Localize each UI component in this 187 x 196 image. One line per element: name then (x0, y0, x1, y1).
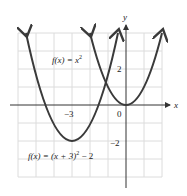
tick-y-2: 2 (117, 64, 122, 74)
tick-y-neg2: −2 (110, 138, 120, 148)
y-axis-label: y (122, 12, 127, 22)
legend-f-x-squared: f(x) = x2 (52, 54, 82, 65)
legend-f-shifted: f(x) = (x + 3)2 − 2 (28, 150, 93, 161)
graph: x y −3 0 2 −2 f(x) = x2 f(x) = (x + 3)2 … (0, 0, 187, 196)
x-axis-label: x (173, 100, 178, 110)
tick-x-0: 0 (117, 109, 122, 119)
tick-x-neg3: −3 (64, 109, 74, 119)
